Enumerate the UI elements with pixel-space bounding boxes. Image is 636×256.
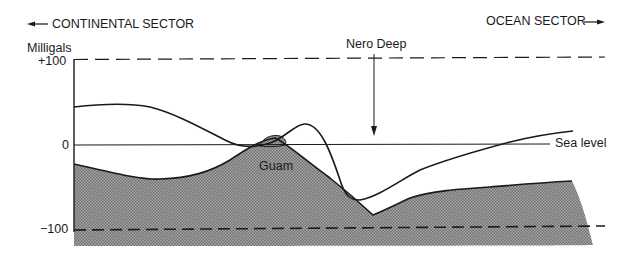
sea-level-line (74, 144, 550, 145)
tick-plus-100: +100 (38, 55, 66, 68)
gravity-profile-diagram (0, 0, 636, 256)
plus-100-dashed-line (74, 57, 605, 60)
continental-sector-label: CONTINENTAL SECTOR (52, 18, 194, 31)
sea-level-label: Sea level (555, 137, 606, 150)
nero-deep-label: Nero Deep (346, 38, 406, 51)
guam-label: Guam (259, 160, 293, 173)
arrow-left-icon (27, 22, 48, 27)
y-axis-unit-label: Milligals (27, 42, 71, 55)
ocean-sector-label: OCEAN SECTOR (486, 15, 586, 28)
nero-deep-arrow-icon (371, 54, 377, 136)
arrow-right-icon (584, 20, 605, 25)
tick-minus-100: −100 (40, 223, 68, 236)
tick-zero: 0 (62, 139, 69, 152)
